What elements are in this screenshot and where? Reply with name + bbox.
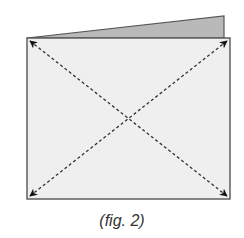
folded-card-diagram: [0, 0, 244, 238]
card-back-flap: [27, 16, 224, 38]
figure-caption: (fig. 2): [0, 212, 244, 230]
